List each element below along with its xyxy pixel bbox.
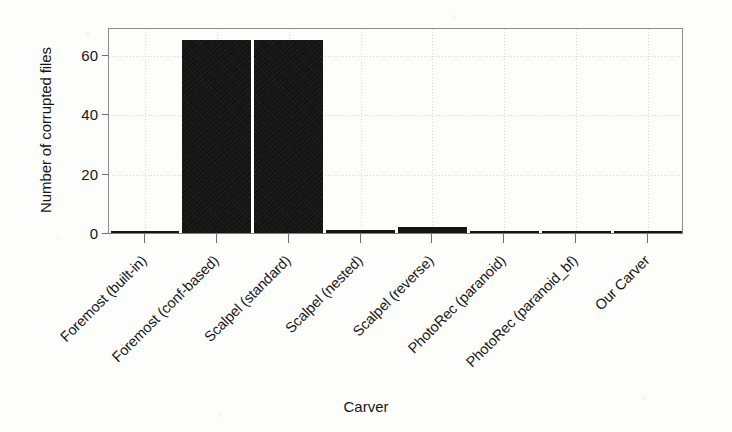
x-tick-mark [216,234,217,243]
x-tick-mark [647,234,648,243]
x-axis-title: Carver [0,398,732,415]
x-tick-mark [575,234,576,243]
x-axis-tick-labels: Foremost (built-in)Foremost (conf-based)… [0,0,732,432]
x-tick-mark [431,234,432,243]
y-tick-mark [102,233,108,234]
x-tick-mark [503,234,504,243]
bar-chart: Number of corrupted files 0204060 Foremo… [0,0,732,432]
x-tick-mark [360,234,361,243]
x-tick-mark [288,234,289,243]
y-tick-mark [102,114,108,115]
y-tick-mark [102,174,108,175]
x-tick-mark [144,234,145,243]
y-tick-mark [102,55,108,56]
